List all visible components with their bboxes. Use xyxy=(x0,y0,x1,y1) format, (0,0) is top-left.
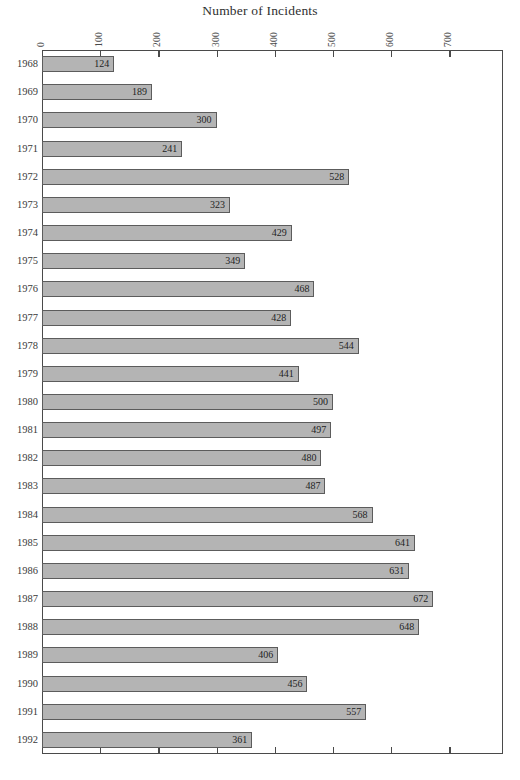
bar: 300 xyxy=(42,112,217,128)
y-category-label: 1990 xyxy=(0,676,38,692)
bar: 441 xyxy=(42,366,299,382)
bar: 361 xyxy=(42,732,252,748)
bar: 456 xyxy=(42,676,307,692)
bar-row: 500 xyxy=(42,394,503,410)
y-category-label: 1980 xyxy=(0,394,38,410)
bar: 528 xyxy=(42,169,349,185)
bar: 672 xyxy=(42,591,433,607)
x-tick-label: 400 xyxy=(269,32,279,47)
y-category-label: 1986 xyxy=(0,563,38,579)
bar-value-label: 672 xyxy=(413,594,428,604)
bar-value-label: 500 xyxy=(313,397,328,407)
bar-row: 672 xyxy=(42,591,503,607)
bar: 349 xyxy=(42,253,245,269)
bar-row: 441 xyxy=(42,366,503,382)
bar-value-label: 557 xyxy=(346,707,361,717)
bar-value-label: 406 xyxy=(258,650,273,660)
y-category-label: 1975 xyxy=(0,253,38,269)
bar-value-label: 468 xyxy=(294,284,309,294)
bar-value-label: 189 xyxy=(132,87,147,97)
bar-value-label: 631 xyxy=(389,566,404,576)
bar-row: 557 xyxy=(42,704,503,720)
bar-row: 189 xyxy=(42,84,503,100)
y-category-label: 1981 xyxy=(0,422,38,438)
x-tick-label: 0 xyxy=(36,42,46,47)
y-category-label: 1972 xyxy=(0,169,38,185)
bar-value-label: 641 xyxy=(395,538,410,548)
bar-chart: Number of Incidents 01002003004005006007… xyxy=(0,0,520,780)
bar-row: 349 xyxy=(42,253,503,269)
bar-row: 487 xyxy=(42,478,503,494)
y-category-label: 1988 xyxy=(0,619,38,635)
bar-row: 406 xyxy=(42,647,503,663)
bar-value-label: 300 xyxy=(197,115,212,125)
bar-row: 648 xyxy=(42,619,503,635)
bar-row: 429 xyxy=(42,225,503,241)
bar-row: 468 xyxy=(42,281,503,297)
bar-row: 631 xyxy=(42,563,503,579)
bar-row: 300 xyxy=(42,112,503,128)
y-category-label: 1989 xyxy=(0,647,38,663)
bar-row: 323 xyxy=(42,197,503,213)
bar-value-label: 428 xyxy=(271,313,286,323)
bar-value-label: 361 xyxy=(232,735,247,745)
y-category-label: 1971 xyxy=(0,141,38,157)
bar: 497 xyxy=(42,422,331,438)
bar: 428 xyxy=(42,310,291,326)
bar: 124 xyxy=(42,56,114,72)
bar: 641 xyxy=(42,535,415,551)
bar-value-label: 349 xyxy=(225,256,240,266)
x-tick-label: 500 xyxy=(327,32,337,47)
y-category-label: 1973 xyxy=(0,197,38,213)
y-axis-category-labels: 1968196919701971197219731974197519761977… xyxy=(0,50,40,754)
bar: 500 xyxy=(42,394,333,410)
y-category-label: 1979 xyxy=(0,366,38,382)
bar-value-label: 497 xyxy=(311,425,326,435)
y-category-label: 1992 xyxy=(0,732,38,748)
bar-value-label: 487 xyxy=(305,481,320,491)
bar-row: 361 xyxy=(42,732,503,748)
bar: 487 xyxy=(42,478,325,494)
y-category-label: 1968 xyxy=(0,56,38,72)
bars-layer: 1241893002415283234293494684285444415004… xyxy=(42,50,503,754)
bar-row: 428 xyxy=(42,310,503,326)
x-tick-label: 200 xyxy=(152,32,162,47)
x-tick-label: 700 xyxy=(443,32,453,47)
bar-value-label: 429 xyxy=(272,228,287,238)
x-tick-label: 100 xyxy=(94,32,104,47)
bar: 568 xyxy=(42,507,373,523)
bar: 480 xyxy=(42,450,321,466)
bar-row: 480 xyxy=(42,450,503,466)
bar: 323 xyxy=(42,197,230,213)
bar-value-label: 323 xyxy=(210,200,225,210)
bar: 468 xyxy=(42,281,314,297)
bar-value-label: 441 xyxy=(279,369,294,379)
bar-row: 544 xyxy=(42,338,503,354)
bar: 241 xyxy=(42,141,182,157)
y-category-label: 1969 xyxy=(0,84,38,100)
bar-value-label: 528 xyxy=(329,172,344,182)
bar-row: 124 xyxy=(42,56,503,72)
bar-row: 241 xyxy=(42,141,503,157)
bar-value-label: 648 xyxy=(399,622,414,632)
y-category-label: 1974 xyxy=(0,225,38,241)
bar-value-label: 480 xyxy=(301,453,316,463)
bar-value-label: 568 xyxy=(353,510,368,520)
y-category-label: 1983 xyxy=(0,478,38,494)
bar: 648 xyxy=(42,619,419,635)
x-tick-label: 300 xyxy=(211,32,221,47)
bar: 557 xyxy=(42,704,366,720)
bar: 631 xyxy=(42,563,409,579)
y-category-label: 1985 xyxy=(0,535,38,551)
bar: 406 xyxy=(42,647,278,663)
chart-title: Number of Incidents xyxy=(0,3,520,19)
bar-row: 497 xyxy=(42,422,503,438)
bar-row: 641 xyxy=(42,535,503,551)
y-category-label: 1978 xyxy=(0,338,38,354)
bar-row: 568 xyxy=(42,507,503,523)
y-category-label: 1991 xyxy=(0,704,38,720)
y-category-label: 1984 xyxy=(0,507,38,523)
bar-value-label: 124 xyxy=(94,59,109,69)
bar-row: 456 xyxy=(42,676,503,692)
bar-value-label: 241 xyxy=(162,144,177,154)
